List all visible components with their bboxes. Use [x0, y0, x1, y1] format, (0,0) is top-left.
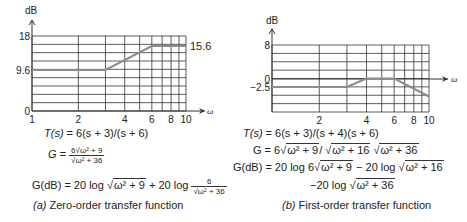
eq-b-gain-db: G(dB) = 20 log 6√ω² + 9 − 20 log √ω² + 1…: [233, 161, 444, 173]
x-tick-label: 10: [180, 114, 192, 125]
y-tick-label: 18: [19, 31, 31, 42]
x-tick-label: 4: [364, 115, 370, 126]
eq-b-gain: G = 6√ω² + 9/ √ω² + 16 √ω² + 36: [253, 144, 419, 156]
eq-a-gain-db: G(dB) = 20 log √ω² + 9 + 20 log 6√ω² + 3…: [32, 177, 227, 196]
y-tick-label: 9.6: [16, 65, 30, 76]
x-tick-label: 1: [29, 114, 35, 125]
y-tick-label: 8: [264, 40, 270, 51]
eq-a-gain: G = 6√ω² + 9√ω² + 36: [48, 146, 104, 165]
y-axis-label: dB: [266, 15, 279, 26]
caption-b: (b) First-order transfer function: [282, 199, 431, 211]
x-tick-label: 2: [76, 114, 82, 125]
magnitude-curve: [32, 46, 186, 70]
magnitude-curve: [272, 79, 429, 97]
chart-zero-order: dBω124681009.61815.6: [16, 5, 213, 125]
x-tick-label: 6: [149, 114, 155, 125]
x-axis-label: ω: [451, 74, 457, 84]
x-tick-label: 6: [391, 115, 397, 126]
x-tick-label: 8: [411, 115, 417, 126]
y-tick-label: −2.5: [250, 82, 270, 93]
y-tick-label: 0: [24, 106, 30, 117]
x-tick-label: 2: [316, 115, 322, 126]
x-tick-label: 10: [423, 115, 435, 126]
eq-a-transfer: T(s) = 6(s + 3)/(s + 6): [44, 127, 148, 139]
y-axis-label: dB: [25, 5, 38, 16]
eq-b-transfer: T(s) = 6(s + 3)/(s + 4)(s + 6): [243, 127, 379, 139]
eq-b-gain-db-cont: −20 log √ω² + 36: [310, 179, 395, 191]
x-tick-label: 8: [168, 114, 174, 125]
caption-a: (a) Zero-order transfer function: [33, 199, 183, 211]
x-axis-label: ω: [207, 106, 213, 116]
value-annotation: 15.6: [190, 40, 211, 52]
chart-first-order: dBω24681080−2.5: [250, 15, 457, 126]
x-tick-label: 4: [122, 114, 128, 125]
